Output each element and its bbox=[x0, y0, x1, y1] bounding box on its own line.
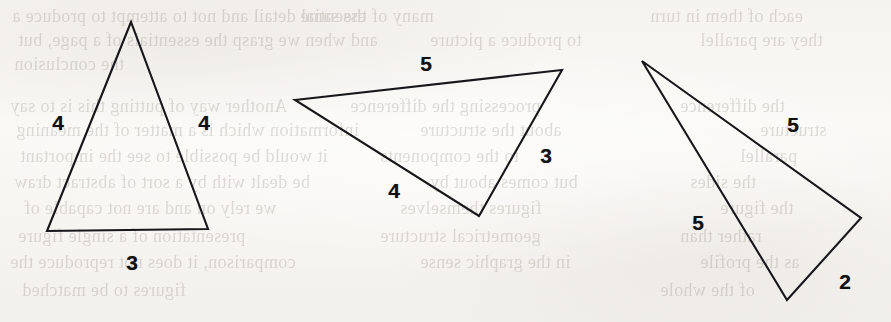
triangle-1-outline bbox=[47, 22, 208, 231]
triangles-drawing bbox=[0, 0, 891, 322]
triangle-2-side-label-top: 5 bbox=[420, 53, 432, 74]
triangle-2-outline bbox=[295, 70, 562, 216]
triangle-3-outline bbox=[642, 61, 861, 300]
triangle-2-side-label-right: 3 bbox=[540, 145, 552, 166]
triangle-3-side-label-left: 5 bbox=[692, 212, 704, 233]
figure-canvas: essential detail and not to attempt to p… bbox=[0, 0, 891, 322]
triangle-1-side-label-right: 4 bbox=[198, 112, 210, 133]
triangle-1-side-label-bottom: 3 bbox=[126, 252, 138, 273]
triangle-2-side-label-bottom: 4 bbox=[388, 180, 400, 201]
triangle-1-side-label-left: 4 bbox=[52, 112, 64, 133]
triangle-3-side-label-upper: 5 bbox=[787, 114, 799, 135]
triangle-3-side-label-short: 2 bbox=[839, 271, 851, 292]
